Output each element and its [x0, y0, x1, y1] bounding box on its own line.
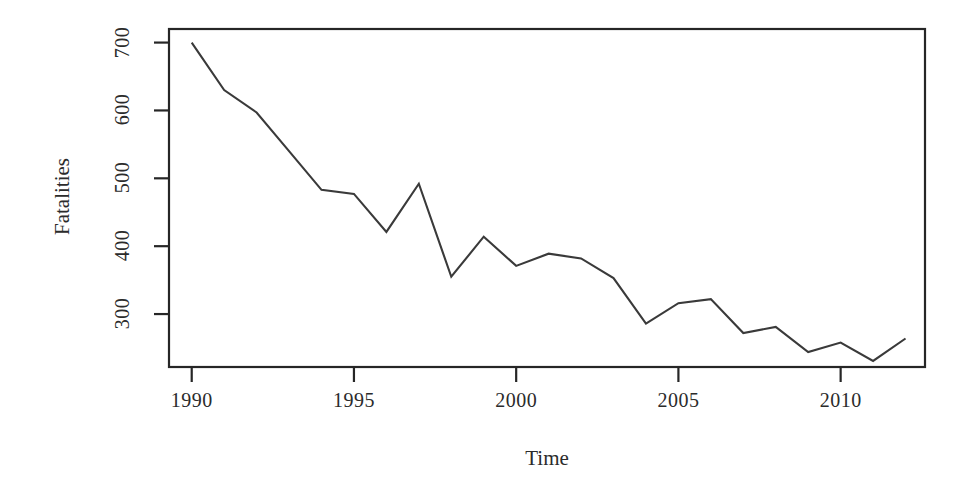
x-axis-tick-label: 2010 — [801, 389, 881, 412]
y-axis-ticks — [154, 43, 169, 314]
x-axis-tick-label: 2005 — [638, 389, 718, 412]
y-axis-title: Fatalities — [50, 97, 75, 297]
line-chart-canvas — [0, 0, 970, 496]
plot-box-border — [169, 29, 925, 367]
fatalities-line-series — [192, 43, 906, 361]
x-axis-tick-label: 1990 — [152, 389, 232, 412]
x-axis-tick-label: 1995 — [314, 389, 394, 412]
plot-frame — [169, 29, 925, 367]
x-axis-title: Time — [397, 446, 697, 471]
y-axis-tick-label: 400 — [111, 218, 134, 274]
x-axis-tick-label: 2000 — [476, 389, 556, 412]
x-axis-ticks — [192, 367, 841, 382]
y-axis-tick-label: 500 — [111, 150, 134, 206]
chart-figure: 300400500600700 19901995200020052010 Fat… — [0, 0, 970, 496]
y-axis-tick-label: 300 — [111, 286, 134, 342]
y-axis-tick-label: 700 — [111, 14, 134, 70]
y-axis-tick-label: 600 — [111, 82, 134, 138]
